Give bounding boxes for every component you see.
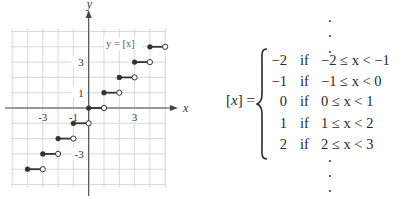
ellipsis-dot-icon [329, 160, 331, 162]
row-condition: 1 ≤ x < 2 [321, 115, 373, 132]
row-if: if [300, 93, 309, 110]
ellipsis-dot-icon [329, 35, 331, 37]
row-condition: 0 ≤ x < 1 [321, 93, 373, 110]
row-if: if [300, 115, 309, 132]
row-if: if [300, 52, 309, 69]
formula-lhs: [x] = [226, 92, 255, 109]
ellipsis-dot-icon [329, 190, 331, 192]
row-value: 2 [266, 136, 287, 153]
ellipsis-dot-icon [329, 175, 331, 177]
row-value: −2 [266, 52, 287, 69]
row-condition: 2 ≤ x < 3 [321, 136, 373, 153]
row-if: if [300, 136, 309, 153]
row-condition: −2 ≤ x < −1 [321, 52, 390, 69]
row-condition: −1 ≤ x < 0 [321, 73, 382, 90]
row-value: 0 [266, 93, 287, 110]
ellipsis-dot-icon [329, 20, 331, 22]
ellipsis-dot-icon [329, 51, 331, 53]
row-value: −1 [266, 73, 287, 90]
row-if: if [300, 73, 309, 90]
row-value: 1 [266, 115, 287, 132]
piecewise-formula: [x] = −2 if −2 ≤ x < −1 −1 if −1 ≤ x < 0… [0, 0, 403, 199]
